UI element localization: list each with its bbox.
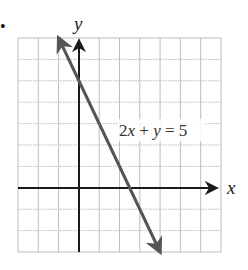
y-axis-label: y bbox=[72, 13, 83, 34]
graph-figure: • y x 2x + y = 5 bbox=[0, 0, 248, 270]
eq-var-y: y bbox=[151, 121, 161, 140]
eq-coef: 2 bbox=[119, 121, 128, 140]
eq-plus: + bbox=[135, 121, 153, 140]
bullet-marker: • bbox=[0, 18, 6, 35]
equation-label: 2x + y = 5 bbox=[119, 121, 187, 140]
eq-rhs: = 5 bbox=[161, 121, 188, 140]
x-axis-label: x bbox=[226, 177, 236, 198]
grid bbox=[18, 38, 221, 252]
